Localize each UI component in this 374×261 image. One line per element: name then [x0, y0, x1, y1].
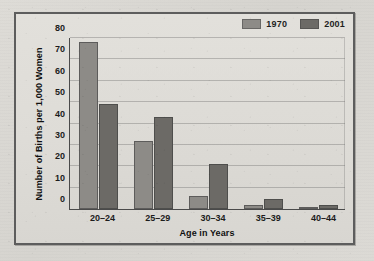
- legend-item-1970: 1970: [242, 19, 287, 29]
- bar-1970-40–44: [299, 207, 318, 209]
- y-tick-label: 40: [55, 109, 65, 119]
- x-tick-label: 40–44: [290, 213, 345, 223]
- bar-2001-20–24: [99, 104, 118, 209]
- y-axis-title: Number of Births per 1,000 Women: [32, 38, 46, 210]
- bar-1970-30–34: [189, 196, 208, 209]
- bar-1970-20–24: [79, 42, 98, 209]
- legend-swatch-1970: [242, 19, 261, 29]
- x-tick-label: 25–29: [124, 213, 179, 223]
- bar-1970-25–29: [134, 141, 153, 209]
- y-tick-label: 70: [55, 44, 65, 54]
- y-tick-label: 30: [55, 130, 65, 140]
- bar-2001-35–39: [264, 199, 283, 209]
- y-tick-label: 10: [55, 173, 65, 183]
- y-tick-label: 20: [55, 151, 65, 161]
- x-tick-labels: 20–2425–2930–3435–3940–44: [69, 213, 345, 223]
- y-axis-title-text: Number of Births per 1,000 Women: [34, 47, 44, 200]
- bar-group: [235, 38, 290, 209]
- legend-swatch-2001: [300, 19, 319, 29]
- bar-group: [125, 38, 180, 209]
- bar-1970-35–39: [244, 205, 263, 209]
- legend-label-1970: 1970: [266, 20, 287, 29]
- x-tick-label: 30–34: [179, 213, 234, 223]
- legend-item-2001: 2001: [300, 19, 345, 29]
- bar-group: [70, 38, 125, 209]
- y-tick-label: 80: [55, 23, 65, 33]
- y-tick-label: 50: [55, 87, 65, 97]
- bar-group: [290, 38, 345, 209]
- y-tick-label: 60: [55, 66, 65, 76]
- bar-2001-40–44: [319, 205, 338, 209]
- chart-figure-frame: 1970 2001 Number of Births per 1,000 Wom…: [14, 12, 355, 245]
- x-tick-label: 20–24: [69, 213, 124, 223]
- y-tick-label: 0: [60, 194, 65, 204]
- x-tick-label: 35–39: [235, 213, 290, 223]
- chart-legend: 1970 2001: [242, 19, 345, 29]
- bars-layer: [70, 38, 345, 209]
- legend-label-2001: 2001: [324, 20, 345, 29]
- scanned-page-background: 1970 2001 Number of Births per 1,000 Wom…: [0, 0, 374, 261]
- bar-2001-25–29: [154, 117, 173, 209]
- x-axis-title: Age in Years: [69, 228, 345, 238]
- bar-2001-30–34: [209, 164, 228, 209]
- plot-area: 01020304050607080: [69, 38, 345, 210]
- bar-group: [180, 38, 235, 209]
